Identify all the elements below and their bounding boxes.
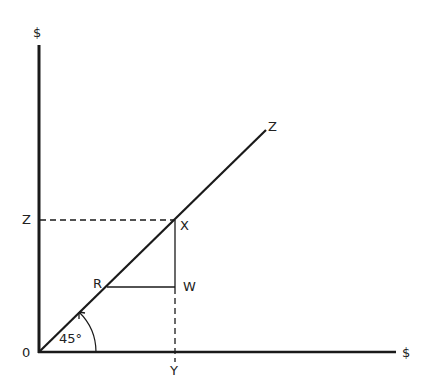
point-x-label: X bbox=[180, 218, 189, 233]
y-axis-label: $ bbox=[33, 25, 41, 40]
x-axis-label: $ bbox=[402, 345, 410, 360]
forty-five-degree-line bbox=[40, 130, 266, 351]
z-axis-label: Z bbox=[22, 212, 31, 227]
diagram-canvas: $ $ 0 Z Z X R W Y 45° bbox=[0, 0, 431, 382]
point-y-label: Y bbox=[169, 363, 178, 378]
point-w-label: W bbox=[183, 279, 196, 294]
line-end-label: Z bbox=[268, 119, 277, 134]
origin-label: 0 bbox=[22, 345, 30, 360]
angle-label: 45° bbox=[59, 331, 82, 346]
point-r-label: R bbox=[93, 276, 102, 291]
